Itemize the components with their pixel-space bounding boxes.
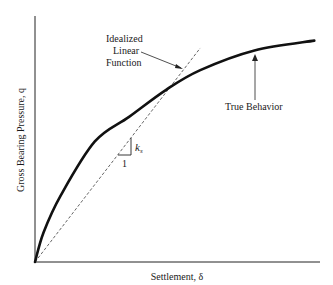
true-behavior-label: True Behavior	[225, 101, 283, 112]
linear-label-arrow	[141, 52, 181, 68]
true-arrowhead	[252, 54, 258, 61]
linear-label-line1: Idealized	[106, 33, 143, 44]
linear-label-line3: Function	[106, 57, 142, 68]
slope-run-label: 1	[122, 158, 127, 169]
x-axis-label: Settlement, δ	[151, 271, 204, 282]
y-axis-label: Gross Bearing Pressure, q	[15, 88, 26, 192]
chart: ks 1 Idealized Linear Function True Beha…	[0, 0, 333, 285]
linear-arrowhead	[175, 64, 183, 69]
linear-label-line2: Linear	[113, 45, 140, 56]
slope-k-label: ks	[135, 141, 143, 155]
linear-function-line	[35, 48, 200, 262]
true-behavior-curve	[35, 41, 314, 262]
